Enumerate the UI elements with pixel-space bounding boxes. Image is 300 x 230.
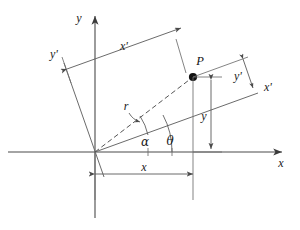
x-dimension-label: x	[140, 160, 147, 174]
theta-angle-label: θ	[166, 134, 174, 148]
y-axis-label: y	[75, 11, 82, 25]
point-p-label: P	[195, 54, 204, 68]
r-leader-arc	[129, 113, 140, 122]
alpha-angle-arc	[140, 116, 148, 135]
y-prime-dimension-arrow	[243, 59, 253, 88]
coordinate-diagram: y x y' x' P x y x' y' r α θ	[0, 0, 300, 230]
y-prime-axis-label: y'	[49, 47, 58, 61]
x-prime-dim-extension-right	[176, 39, 186, 73]
y-dimension-label: y	[200, 109, 207, 123]
x-prime-axis-label: x'	[263, 80, 272, 94]
x-prime-dim-extension-left	[62, 57, 71, 83]
figure-root: y x y' x' P x y x' y' r α θ	[0, 0, 300, 230]
y-prime-dimension-label: y'	[233, 69, 242, 83]
x-prime-axis-line	[95, 93, 258, 152]
x-prime-dimension-label: x'	[119, 39, 128, 53]
x-axis-label: x	[277, 156, 284, 170]
radius-label: r	[124, 99, 129, 113]
alpha-angle-label: α	[141, 135, 149, 149]
